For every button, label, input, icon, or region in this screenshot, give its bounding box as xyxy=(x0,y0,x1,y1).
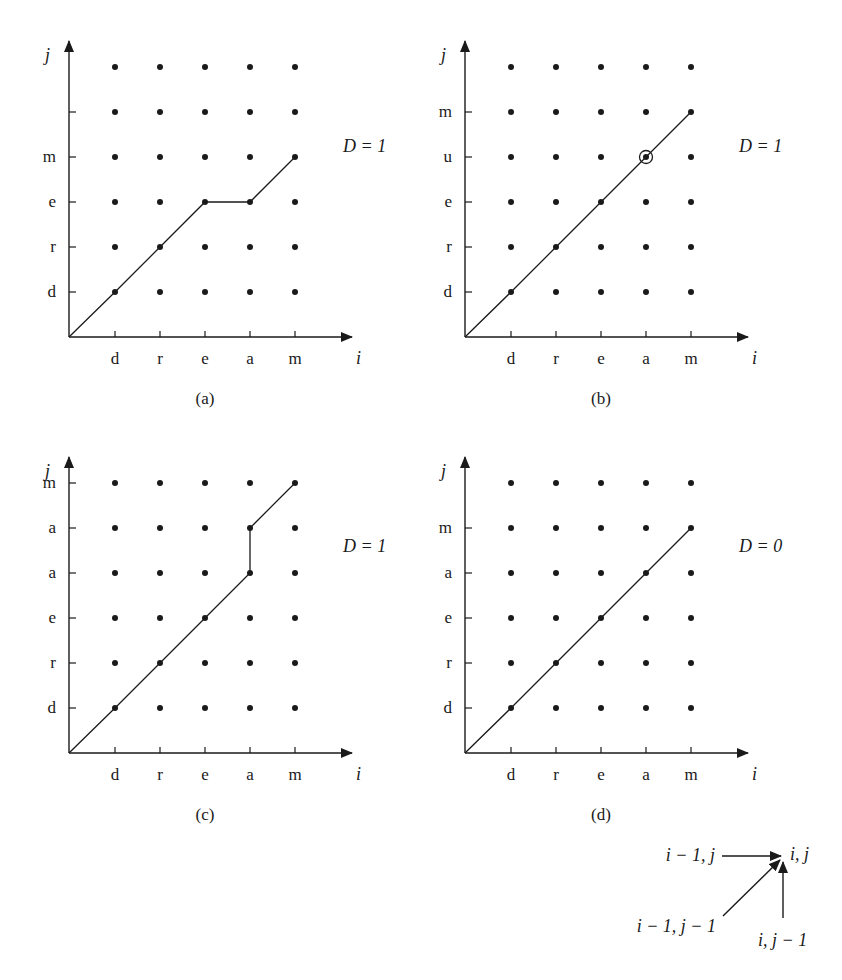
panel-a: jidreamdremD = 1(a) xyxy=(43,41,386,408)
alignment-path xyxy=(69,483,295,753)
grid-dot xyxy=(202,244,208,250)
y-tick-label: d xyxy=(48,282,57,301)
grid-dot xyxy=(112,480,118,486)
x-tick-label: a xyxy=(642,349,650,368)
grid-dot xyxy=(292,705,298,711)
x-tick-label: e xyxy=(597,765,605,784)
grid-dot xyxy=(643,615,649,621)
grid-dot xyxy=(112,570,118,576)
panel-caption: (d) xyxy=(591,805,611,824)
y-tick-label: a xyxy=(444,563,452,582)
grid-dot xyxy=(643,705,649,711)
grid-dot xyxy=(598,480,604,486)
grid-dot xyxy=(292,660,298,666)
distance-label: D = 1 xyxy=(342,536,386,556)
grid-dot xyxy=(643,64,649,70)
grid-dot xyxy=(508,525,514,531)
panel-c: jidreamdreaamD = 1(c) xyxy=(43,457,386,824)
grid-dot xyxy=(598,570,604,576)
x-axis-label: i xyxy=(752,764,757,784)
y-tick-label: e xyxy=(48,192,56,211)
x-tick-label: m xyxy=(684,765,697,784)
grid-dot xyxy=(643,199,649,205)
grid-dot xyxy=(553,154,559,160)
x-tick-label: m xyxy=(288,349,301,368)
grid-dot xyxy=(157,705,163,711)
x-tick-label: e xyxy=(201,765,209,784)
grid-dot xyxy=(202,705,208,711)
grid-dot xyxy=(643,480,649,486)
grid-dot xyxy=(247,615,253,621)
grid-dot xyxy=(688,615,694,621)
grid-dot xyxy=(202,109,208,115)
grid-dot xyxy=(157,154,163,160)
grid-dot xyxy=(688,199,694,205)
grid-dot xyxy=(598,289,604,295)
grid-dot xyxy=(292,570,298,576)
grid-dot xyxy=(643,289,649,295)
y-tick-label: e xyxy=(48,608,56,627)
grid-dot xyxy=(508,199,514,205)
y-tick-label: r xyxy=(50,653,56,672)
grid-dot xyxy=(508,570,514,576)
edit-distance-figure: jidreamdremD = 1(a)jidreamdreumD = 1(b)j… xyxy=(0,0,842,980)
x-tick-label: m xyxy=(684,349,697,368)
grid-dot xyxy=(202,660,208,666)
grid-dot xyxy=(508,64,514,70)
grid-dot xyxy=(292,109,298,115)
y-tick-label: e xyxy=(444,608,452,627)
x-tick-label: r xyxy=(553,349,559,368)
grid-dot xyxy=(688,244,694,250)
grid-dot xyxy=(112,199,118,205)
distance-label: D = 1 xyxy=(738,136,782,156)
grid-dot xyxy=(598,525,604,531)
grid-dot xyxy=(688,570,694,576)
grid-dot xyxy=(247,154,253,160)
grid-dot xyxy=(688,154,694,160)
grid-dot xyxy=(598,109,604,115)
x-tick-label: r xyxy=(553,765,559,784)
grid-dot xyxy=(112,615,118,621)
grid-dot xyxy=(598,154,604,160)
grid-dot xyxy=(112,109,118,115)
x-axis-label: i xyxy=(356,764,361,784)
grid-dot xyxy=(508,660,514,666)
grid-dot xyxy=(292,64,298,70)
y-tick-label: e xyxy=(444,192,452,211)
distance-label: D = 0 xyxy=(738,536,782,556)
panel-caption: (c) xyxy=(196,805,215,824)
grid-dot xyxy=(157,525,163,531)
x-tick-label: d xyxy=(111,765,120,784)
grid-dot xyxy=(112,154,118,160)
x-tick-label: r xyxy=(157,349,163,368)
grid-dot xyxy=(553,289,559,295)
grid-dot xyxy=(643,525,649,531)
grid-dot xyxy=(553,480,559,486)
panel-d: jidreamdreamD = 0(d) xyxy=(439,457,782,824)
grid-dot xyxy=(508,244,514,250)
grid-dot xyxy=(247,480,253,486)
grid-dot xyxy=(553,705,559,711)
grid-dot xyxy=(202,480,208,486)
x-tick-label: d xyxy=(507,349,516,368)
y-tick-label: m xyxy=(43,147,56,166)
grid-dot xyxy=(292,199,298,205)
grid-dot xyxy=(688,660,694,666)
y-tick-label: r xyxy=(50,237,56,256)
grid-dot xyxy=(688,705,694,711)
alignment-path xyxy=(465,112,691,337)
grid-dot xyxy=(112,660,118,666)
legend-target-label: i, j xyxy=(790,844,809,864)
alignment-path xyxy=(69,157,295,337)
grid-dot xyxy=(157,615,163,621)
x-tick-label: e xyxy=(597,349,605,368)
grid-dot xyxy=(112,244,118,250)
x-axis-label: i xyxy=(356,348,361,368)
grid-dot xyxy=(247,705,253,711)
grid-dot xyxy=(643,109,649,115)
grid-dot xyxy=(508,109,514,115)
panel-b: jidreamdreumD = 1(b) xyxy=(439,41,782,408)
grid-dot xyxy=(508,615,514,621)
grid-dot xyxy=(553,525,559,531)
grid-dot xyxy=(292,244,298,250)
